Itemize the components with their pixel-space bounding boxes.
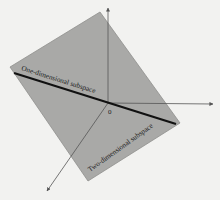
origin-label: 0 bbox=[108, 108, 112, 116]
two-dimensional-subspace-plane bbox=[10, 12, 180, 181]
subspace-diagram: One-dimensional subspace Two-dimensional… bbox=[0, 0, 220, 200]
